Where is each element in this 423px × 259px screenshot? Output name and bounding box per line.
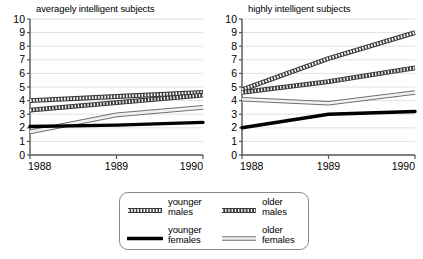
x-tick-label: 1989 [105,160,129,172]
legend-item-label: younger males [168,197,202,218]
legend-swatch-older-females [221,230,257,241]
y-tick-label: 1 [231,135,237,147]
legend-item: older females [214,225,308,246]
y-tick-label: 1 [19,135,25,147]
y-tick-label: 7 [231,53,237,65]
legend-item-label: younger females [168,225,202,246]
y-tick-label: 7 [19,53,25,65]
legend-swatch-younger-females [127,230,163,241]
y-tick-label: 4 [19,94,25,106]
legend-item: younger females [120,225,214,246]
y-tick-label: 10 [225,13,237,25]
y-tick-label: 5 [19,81,25,93]
chart-panel-highly-intelligent: highly intelligent subjects 012345678910… [212,0,423,190]
legend-box: younger malesolder malesyounger femaleso… [119,192,309,250]
charts-container: averagely intelligent subjects 012345678… [0,0,423,190]
y-tick-label: 3 [19,108,25,120]
x-tick-label: 1989 [317,160,341,172]
chart-plot-right: 012345678910198819891990 [212,0,423,190]
series-older-females [242,92,415,103]
legend-swatch-younger-males [127,202,163,213]
y-tick-label: 6 [231,67,237,79]
legend-item-label: older males [262,197,287,218]
y-tick-label: 8 [19,40,25,52]
x-tick-label: 1990 [180,160,204,172]
y-tick-label: 2 [231,121,237,133]
y-tick-label: 10 [13,13,25,25]
y-tick-label: 9 [231,26,237,38]
y-tick-label: 8 [231,40,237,52]
chart-panel-averagely-intelligent: averagely intelligent subjects 012345678… [0,0,211,190]
y-tick-label: 9 [19,26,25,38]
y-tick-label: 0 [19,149,25,161]
y-tick-label: 0 [231,149,237,161]
legend-swatch-older-males [221,202,257,213]
legend-item: older males [214,197,308,218]
chart-plot-left: 012345678910198819891990 [0,0,211,190]
x-tick-label: 1988 [240,160,264,172]
y-tick-label: 3 [231,108,237,120]
x-tick-label: 1988 [28,160,52,172]
series-younger-females [30,122,203,126]
x-tick-label: 1990 [392,160,416,172]
y-tick-label: 5 [231,81,237,93]
legend-item-label: older females [262,225,295,246]
legend-container: younger malesolder malesyounger femaleso… [0,190,423,259]
y-tick-label: 6 [19,67,25,79]
y-tick-label: 4 [231,94,237,106]
legend-item: younger males [120,197,214,218]
y-tick-label: 2 [19,121,25,133]
